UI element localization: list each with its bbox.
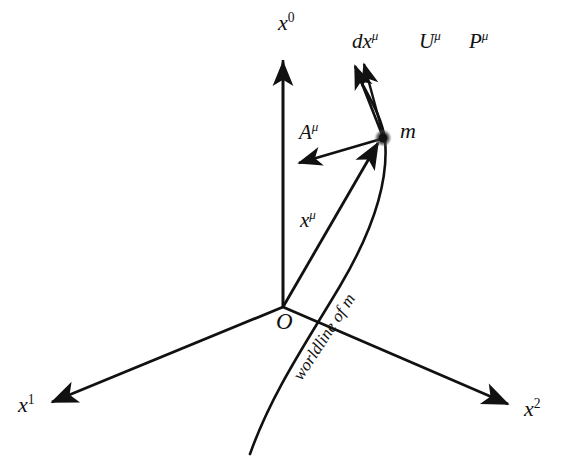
acceleration-vector-label: Aμ (299, 122, 318, 143)
particle-label: m (400, 120, 416, 142)
velocity-vector-label: Uμ (419, 31, 441, 52)
momentum-vector-label: Pμ (469, 31, 488, 52)
momentum-vector-arrow (364, 64, 384, 138)
position-vector-arrow (283, 143, 378, 307)
axis-label-x1: x1 (18, 394, 35, 416)
particle-marker (379, 134, 387, 142)
origin-label: O (276, 310, 293, 333)
axis-label-x0: x0 (278, 12, 295, 34)
axis-label-x2: x2 (524, 398, 541, 420)
axis-x1-line (52, 307, 283, 402)
position-vector-label: xμ (300, 210, 316, 231)
displacement-vector-arrow (355, 66, 383, 137)
displacement-vector-label: dxμ (352, 31, 378, 52)
diagram-canvas (0, 0, 577, 457)
spacetime-worldline-diagram: x0 x1 x2 O m xμ Aμ dxμ Uμ Pμ worldline o… (0, 0, 577, 457)
